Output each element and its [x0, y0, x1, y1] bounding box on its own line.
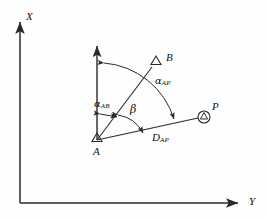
alpha-ap-subscript: AP — [162, 79, 171, 87]
x-axis-label: X — [26, 11, 33, 22]
station-marker-b — [151, 56, 161, 65]
arc-alpha-ap — [104, 63, 174, 119]
station-marker-p — [198, 111, 210, 123]
alpha-ap-symbol: α — [155, 75, 162, 86]
arc-alpha-ab — [100, 114, 117, 117]
beta-symbol: β — [130, 103, 136, 116]
surveying-azimuth-diagram: X Y A B P αAB αAP β DAP — [0, 0, 268, 219]
angle-label-alpha-ab: αAB — [94, 99, 110, 110]
alpha-ab-subscript: AB — [101, 102, 110, 110]
line-a-to-p — [97, 118, 198, 140]
distance-label-d-ap: DAP — [152, 132, 169, 144]
d-ap-symbol: D — [152, 131, 160, 143]
d-ap-subscript: AP — [160, 136, 169, 144]
station-label-b: B — [166, 52, 173, 63]
angle-label-beta: β — [130, 104, 136, 115]
angle-label-alpha-ap: αAP — [155, 76, 171, 87]
y-axis-label: Y — [249, 196, 255, 207]
station-label-a: A — [93, 146, 100, 157]
alpha-ab-symbol: α — [94, 98, 101, 109]
station-label-p: P — [212, 101, 219, 112]
